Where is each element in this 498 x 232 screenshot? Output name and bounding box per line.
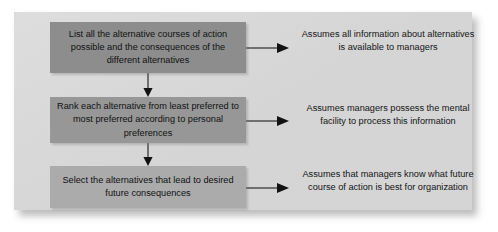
assumption-text-2: Assumes managers possess the mental faci…	[300, 102, 476, 129]
assumption-text-3: Assumes that managers know what future c…	[300, 168, 476, 195]
diagram-canvas: List all the alternative courses of acti…	[0, 0, 498, 232]
process-step-box-1: List all the alternative courses of acti…	[50, 22, 246, 73]
process-step-box-3: Select the alternatives that lead to des…	[50, 166, 246, 208]
process-step-box-2: Rank each alternative from least preferr…	[50, 97, 246, 143]
assumption-text-1: Assumes all information about alternativ…	[300, 28, 476, 55]
